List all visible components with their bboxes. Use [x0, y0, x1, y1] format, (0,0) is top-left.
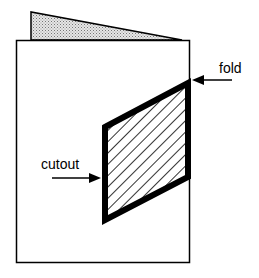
- folded-paper-diagram: fold cutout: [0, 0, 259, 278]
- back-flap: [31, 12, 182, 40]
- diagram-graphic: [0, 0, 259, 278]
- cutout-label: cutout: [41, 157, 79, 171]
- fold-label: fold: [219, 61, 242, 75]
- fold-arrowhead: [192, 75, 204, 85]
